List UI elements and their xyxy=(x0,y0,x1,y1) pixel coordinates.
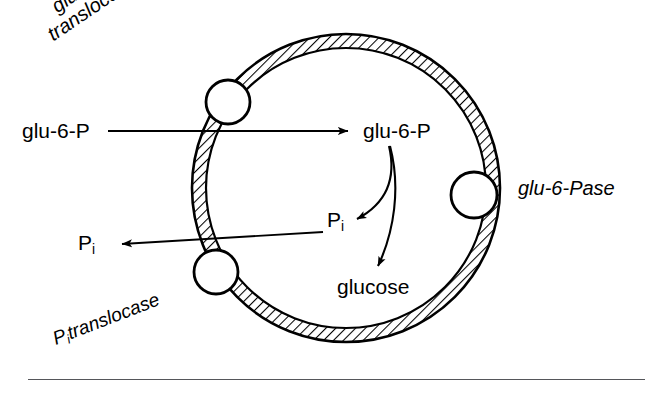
pi-outside-subscript: i xyxy=(92,241,95,257)
membrane-ring xyxy=(0,0,662,398)
label-glucose: glucose xyxy=(337,276,409,298)
label-glu-6-p-inside: glu-6-P xyxy=(363,120,431,142)
pi-outside-base: P xyxy=(78,231,92,254)
label-glu-6-p-outside: glu-6-P xyxy=(22,120,90,142)
label-pi-inside: Pi xyxy=(327,209,344,233)
glu-6-pase-icon xyxy=(451,172,497,218)
glucose-6-phosphatase-system-diagram: glu-6-P Pi glu-6-P Pi glucose glu-6-Ptra… xyxy=(0,0,662,398)
pi-inside-base: P xyxy=(327,208,341,231)
label-pi-outside: Pi xyxy=(78,232,95,256)
pi-translocase-icon xyxy=(194,250,238,294)
bottom-divider-rule xyxy=(28,379,645,380)
diagram-canvas xyxy=(0,0,662,398)
glu-6-p-translocase-icon xyxy=(206,80,250,124)
label-glu-6-pase: glu-6-Pase xyxy=(518,178,615,199)
pi-inside-subscript: i xyxy=(341,218,344,234)
